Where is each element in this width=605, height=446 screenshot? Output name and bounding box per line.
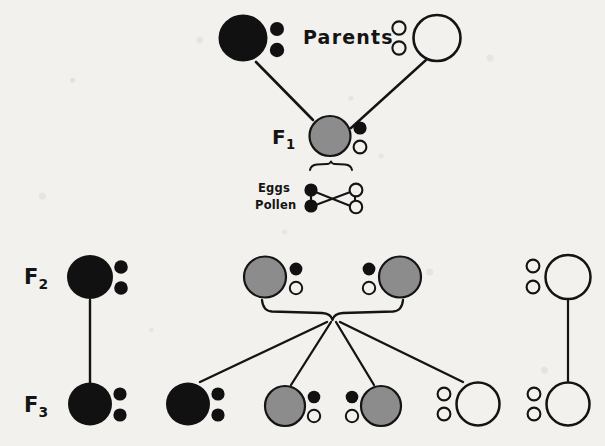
connector-brace-to-f3b xyxy=(200,322,327,382)
connector-brace-to-f3c xyxy=(291,322,331,385)
organism-circle-heterozygous xyxy=(379,257,421,298)
generation-f3 xyxy=(68,383,590,427)
gamete-dot-filled-upper xyxy=(114,260,128,274)
organism-circle-heterozygous xyxy=(244,257,286,298)
gamete-dot-open-lower xyxy=(392,41,405,54)
f3-subscript: 3 xyxy=(39,404,49,420)
parents-label: Parents xyxy=(303,28,394,47)
gamete-dot-open-lower xyxy=(438,408,451,421)
gamete-dot-open xyxy=(308,410,320,422)
gamete-egg-open xyxy=(350,184,363,197)
gamete-pollen-filled xyxy=(304,199,317,212)
individual-f3-dominant-first xyxy=(68,383,127,426)
gamete-egg-filled xyxy=(304,183,317,196)
gamete-dot-filled xyxy=(353,121,366,134)
gamete-dot-open-upper xyxy=(438,388,451,401)
f2-subscript: 2 xyxy=(39,276,49,292)
f1-letter: F xyxy=(272,125,286,149)
gamete-dot-open xyxy=(354,141,367,154)
gamete-dot-filled-lower xyxy=(211,408,224,421)
f1-subscript: 1 xyxy=(286,137,295,152)
individual-parent-recessive xyxy=(392,15,460,61)
organism-circle-heterozygous xyxy=(265,386,305,426)
f3-generation-label: F3 xyxy=(24,395,48,420)
diagram-ink-layer xyxy=(0,0,605,446)
individual-f2-dominant xyxy=(67,255,128,299)
f2-letter: F xyxy=(24,265,39,289)
gamete-dot-filled-lower xyxy=(113,408,126,421)
gamete-dot-filled-lower xyxy=(114,281,128,295)
gamete-dot-open-lower xyxy=(527,281,540,294)
pollen-label: Pollen xyxy=(255,200,296,212)
connector-parent2-to-f1 xyxy=(351,60,426,128)
organism-circle-recessive xyxy=(457,383,500,426)
gamete-dot-open-upper xyxy=(527,260,540,273)
gamete-dot-filled-upper xyxy=(211,387,224,400)
brace-under-f2-heterozygotes xyxy=(262,300,403,320)
gamete-dot-filled xyxy=(363,263,376,276)
individual-f3-recessive-first xyxy=(438,383,500,426)
gamete-cross-group xyxy=(304,183,362,213)
genetics-diagram-figure: Parents F1 Eggs Pollen F2 F3 xyxy=(0,0,605,446)
gamete-dot-filled-upper xyxy=(270,22,284,36)
organism-circle-dominant xyxy=(219,15,268,62)
individual-f3-recessive-second xyxy=(528,383,590,426)
individual-f2-heterozygote-right xyxy=(363,257,421,298)
organism-circle-dominant xyxy=(166,383,210,426)
eggs-label: Eggs xyxy=(258,183,290,195)
individual-parent-dominant xyxy=(219,15,285,62)
organism-circle-recessive xyxy=(546,255,591,299)
gamete-pollen-open xyxy=(350,201,362,213)
gamete-dot-filled xyxy=(290,263,303,276)
organism-circle-recessive xyxy=(547,383,590,426)
gamete-dot-open-upper xyxy=(528,388,541,401)
gamete-dot-open xyxy=(290,282,302,294)
organism-circle-heterozygous xyxy=(361,386,401,426)
generation-f2 xyxy=(67,255,591,299)
connector-brace-to-f3e xyxy=(340,322,463,382)
brace-under-f1 xyxy=(310,162,352,171)
gamete-dot-filled xyxy=(346,391,359,404)
individual-f2-recessive xyxy=(527,255,591,299)
individual-f3-heterozygote-right xyxy=(346,386,401,426)
individual-f3-heterozygote-left xyxy=(265,386,320,426)
gamete-dot-open-lower xyxy=(528,408,541,421)
individual-f3-dominant-second xyxy=(166,383,225,426)
organism-circle-recessive xyxy=(414,15,461,61)
f3-letter: F xyxy=(24,393,39,417)
organism-circle-dominant xyxy=(68,383,112,426)
individual-f1-heterozygote xyxy=(310,116,367,156)
organism-circle-dominant xyxy=(67,255,113,299)
gamete-dot-open xyxy=(363,282,375,294)
f1-generation-label: F1 xyxy=(272,127,295,151)
organism-circle-heterozygous xyxy=(310,116,351,156)
gamete-dot-filled-upper xyxy=(113,387,126,400)
connector-group-f2brace-to-f3 xyxy=(200,322,463,385)
generation-f1 xyxy=(310,116,367,156)
gamete-dot-open xyxy=(346,410,358,422)
connector-parent1-to-f1 xyxy=(256,62,313,120)
connector-brace-to-f3d xyxy=(336,322,374,385)
gamete-dot-filled xyxy=(308,391,321,404)
connector-group-f2-to-f3 xyxy=(90,300,568,383)
individual-f2-heterozygote-left xyxy=(244,257,302,298)
gamete-dot-open-upper xyxy=(392,21,405,34)
gamete-dot-filled-lower xyxy=(270,43,284,57)
f2-generation-label: F2 xyxy=(24,267,48,292)
